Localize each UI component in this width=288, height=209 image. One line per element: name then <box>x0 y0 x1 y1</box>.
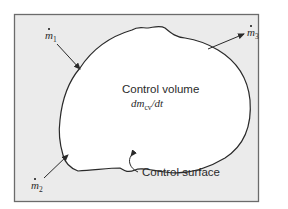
control-volume-label: Control volume <box>122 84 199 96</box>
m2-label: m2 <box>31 180 43 194</box>
control-surface-label: Control surface <box>142 167 220 179</box>
m2-subscript: 2 <box>39 185 43 194</box>
m1-label: m1 <box>45 30 57 44</box>
rate-tail: /dt <box>152 97 164 109</box>
rate-main: dm <box>131 97 144 109</box>
mass-flow-symbol: m <box>247 27 255 38</box>
mass-flow-symbol: m <box>31 180 39 191</box>
rate-subscript: cv <box>144 103 151 112</box>
m1-subscript: 1 <box>53 35 57 44</box>
mass-flow-symbol: m <box>45 30 53 41</box>
mass-rate-expression: dmcv/dt <box>131 98 163 112</box>
m3-subscript: 3 <box>255 32 259 41</box>
control-volume-diagram: m1 m3 m2 Control volume dmcv/dt Control … <box>0 0 288 209</box>
m3-label: m3 <box>247 27 259 41</box>
